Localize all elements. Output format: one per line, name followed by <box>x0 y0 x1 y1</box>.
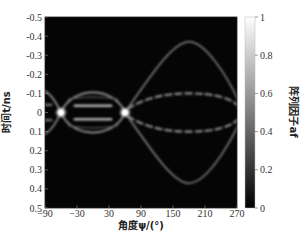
y-tick-label: 0 <box>37 107 42 118</box>
y-axis-label: 时间t/ns <box>0 91 12 133</box>
colorbar-tick-label: 0.8 <box>260 50 273 61</box>
y-tick-label: 0.1 <box>30 126 43 137</box>
heatmap-chart: -0.5-0.4-0.3-0.2-0.100.10.20.30.40.5 −90… <box>0 0 301 245</box>
y-tick-label: -0.4 <box>26 31 42 42</box>
colorbar-tick-label: 0.6 <box>260 88 273 99</box>
colorbar-tick-label: 0.4 <box>260 126 273 137</box>
y-tick-label: 0.4 <box>30 183 43 194</box>
x-tick-label: −90 <box>37 208 53 219</box>
x-tick-label: 150 <box>166 208 181 219</box>
colorbar-tick-label: 0.2 <box>260 164 273 175</box>
y-tick-label: 0.3 <box>30 164 43 175</box>
colorbar-tick-label: 1 <box>260 12 265 23</box>
colorbar-tick-label: 0 <box>260 203 265 214</box>
peak-marker <box>59 110 63 114</box>
x-tick-label: 210 <box>198 208 213 219</box>
colorbar-label: 阵列因子af <box>288 86 300 138</box>
plot-area <box>40 17 240 208</box>
colorbar-ticks: 00.20.40.60.81 <box>255 12 273 214</box>
y-tick-label: -0.2 <box>26 69 42 80</box>
x-tick-label: −30 <box>69 208 85 219</box>
peak-marker <box>123 110 127 114</box>
y-tick-label: -0.5 <box>26 12 42 23</box>
x-axis-label: 角度ψ/(°) <box>118 219 164 231</box>
y-tick-label: 0.2 <box>30 145 43 156</box>
x-tick-label: 90 <box>136 208 146 219</box>
colorbar <box>245 17 255 208</box>
y-tick-label: -0.1 <box>26 88 42 99</box>
y-tick-label: -0.3 <box>26 50 42 61</box>
x-tick-label: 270 <box>230 208 245 219</box>
x-tick-label: 30 <box>104 208 114 219</box>
